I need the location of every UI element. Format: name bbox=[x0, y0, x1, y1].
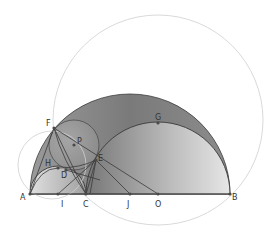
point-p bbox=[72, 143, 75, 146]
point-o bbox=[156, 192, 159, 195]
point-label-e: E bbox=[98, 154, 103, 163]
point-a bbox=[28, 192, 31, 195]
point-j bbox=[128, 192, 131, 195]
point-label-a: A bbox=[20, 193, 26, 202]
point-label-o: O bbox=[155, 200, 161, 209]
arbelos-diagram: ABCIJOFGPEHD bbox=[0, 0, 272, 244]
point-label-d: D bbox=[61, 171, 67, 180]
point-label-f: F bbox=[46, 119, 51, 128]
point-h bbox=[56, 166, 59, 169]
geometry-canvas: ABCIJOFGPEHD bbox=[0, 0, 272, 244]
point-label-b: B bbox=[232, 193, 238, 202]
point-label-j: J bbox=[126, 200, 129, 209]
point-label-g: G bbox=[155, 113, 161, 122]
point-label-i: I bbox=[61, 200, 63, 209]
point-label-h: H bbox=[45, 159, 51, 168]
point-label-p: P bbox=[77, 137, 82, 146]
point-f bbox=[52, 126, 55, 129]
point-label-c: C bbox=[83, 200, 89, 209]
point-i bbox=[56, 192, 59, 195]
point-c bbox=[84, 192, 87, 195]
